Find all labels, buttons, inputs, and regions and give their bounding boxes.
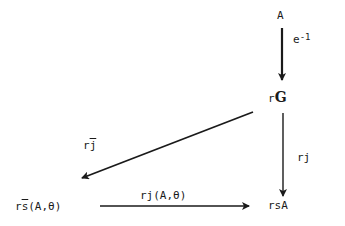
label-rj-bar-char: j (90, 139, 97, 152)
node-rG-symbol: G (275, 89, 287, 105)
node-rs-bar-prefix: r (15, 200, 22, 213)
label-rj-bar-prefix: r (83, 139, 90, 152)
label-rj-bar: rj (83, 140, 96, 152)
label-rj: rj (297, 152, 310, 164)
arrow-rj-bar (82, 112, 253, 178)
node-rs-bar: rs(A,θ) (15, 201, 61, 213)
label-rj-A-theta: rj(A,θ) (140, 190, 186, 202)
node-rG-prefix: r (268, 92, 275, 105)
label-e-inverse: e-1 (293, 34, 310, 46)
label-e-exponent: -1 (300, 32, 311, 42)
node-A: A (277, 10, 284, 22)
node-rs-bar-suffix: (A,θ) (28, 200, 61, 213)
node-rG: rG (268, 91, 287, 105)
label-e-base: e (293, 33, 300, 46)
node-rsA: rsA (268, 200, 288, 212)
